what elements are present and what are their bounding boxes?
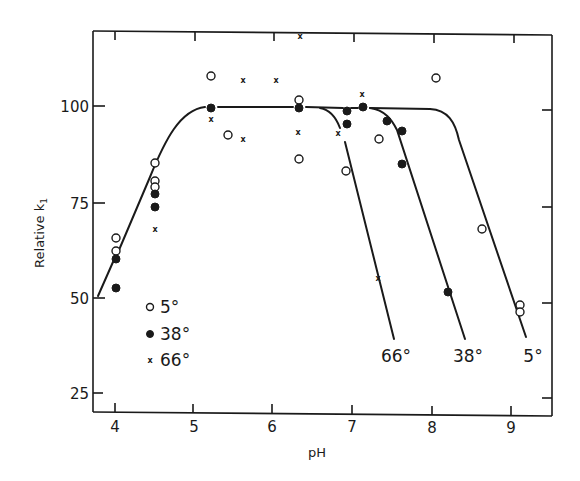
- data-point: [478, 225, 486, 233]
- y-tick-label: 75: [70, 195, 89, 213]
- data-point: [112, 247, 120, 255]
- data-point: [151, 203, 159, 211]
- data-point: [343, 107, 351, 115]
- data-point: [224, 131, 232, 139]
- data-point: [295, 155, 303, 163]
- data-point: x: [335, 129, 341, 138]
- x-axis-title: pH: [308, 445, 326, 460]
- x-tick-label: 6: [267, 418, 277, 436]
- data-point: [295, 104, 303, 112]
- legend-label-38deg: 38°: [160, 324, 190, 344]
- data-point: [207, 104, 215, 112]
- legend: 5° 38° x 66°: [147, 297, 191, 370]
- chart: 4 5 6 7 8 9 25 50 75 100 pH Relative k1 …: [0, 0, 580, 481]
- x-tick-label: 5: [189, 418, 199, 436]
- legend-label-5deg: 5°: [160, 297, 179, 317]
- data-point: [112, 255, 120, 263]
- curve-5: [430, 109, 526, 337]
- data-point: x: [240, 135, 246, 144]
- data-point: x: [240, 76, 246, 85]
- series-66deg: x x x x x x x x x x: [152, 32, 381, 283]
- x-tick-labels: 4 5 6 7 8 9: [110, 418, 516, 437]
- legend-marker-filled-circle: [147, 331, 154, 338]
- y-tick-labels: 25 50 75 100: [60, 98, 89, 403]
- data-point: [295, 96, 303, 104]
- data-point: [516, 308, 524, 316]
- data-point: [398, 127, 406, 135]
- data-point: x: [152, 225, 158, 234]
- legend-label-66deg: 66°: [160, 350, 190, 370]
- curve-label-5: 5°: [523, 346, 542, 366]
- legend-marker-x: x: [147, 356, 153, 365]
- data-point: [432, 74, 440, 82]
- y-tick-label: 50: [70, 290, 89, 308]
- x-tick-label: 4: [110, 418, 120, 436]
- data-point: x: [375, 274, 381, 283]
- data-point: x: [208, 115, 214, 124]
- series-38deg: [112, 103, 452, 296]
- curve-38: [370, 108, 465, 339]
- curve-rising-lower: [98, 262, 113, 296]
- data-point: [207, 72, 215, 80]
- series-5deg: [112, 72, 524, 316]
- legend-marker-open-circle: [147, 304, 154, 311]
- data-point: x: [273, 76, 279, 85]
- curve-rising: [119, 107, 205, 250]
- data-point: [398, 160, 406, 168]
- data-point: [375, 135, 383, 143]
- data-point: x: [359, 90, 365, 99]
- x-tick-label: 7: [347, 418, 357, 436]
- data-point: [342, 167, 350, 175]
- data-point: [343, 120, 351, 128]
- y-tick-label: 25: [70, 385, 89, 403]
- y-axis-title: Relative k1: [32, 198, 49, 268]
- x-tick-label: 8: [427, 419, 437, 437]
- x-tick-label: 9: [506, 419, 516, 437]
- y-axis-title-sub: 1: [39, 198, 49, 204]
- data-point: [112, 234, 120, 242]
- curve-label-66: 66°: [381, 346, 411, 366]
- curve-labels: 66° 38° 5°: [381, 346, 543, 366]
- data-point: x: [295, 128, 301, 137]
- y-axis-title-main: Relative k: [32, 203, 47, 268]
- y-tick-label: 100: [60, 98, 89, 116]
- data-point: [151, 190, 159, 198]
- data-point: [359, 103, 367, 111]
- curve-66: [320, 108, 394, 339]
- data-point: [112, 284, 120, 292]
- curve-label-38: 38°: [453, 346, 483, 366]
- data-point: [444, 288, 452, 296]
- data-point: [151, 159, 159, 167]
- svg-text:Relative k1: Relative k1: [32, 198, 49, 268]
- data-point: x: [297, 32, 303, 41]
- data-point: [383, 117, 391, 125]
